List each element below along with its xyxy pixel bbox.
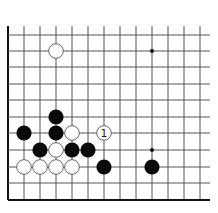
black-stone — [96, 159, 111, 174]
white-stone — [65, 160, 80, 175]
black-stone — [32, 142, 47, 157]
white-stone — [65, 126, 80, 141]
move-number-label: 1 — [101, 128, 107, 139]
black-stone — [144, 159, 159, 174]
white-stone — [49, 143, 64, 158]
white-stone — [33, 160, 48, 175]
star-point — [150, 148, 154, 152]
black-stone — [16, 125, 31, 140]
white-stone — [49, 160, 64, 175]
white-stone — [17, 160, 32, 175]
black-stone — [80, 142, 95, 157]
white-stone — [49, 44, 64, 59]
go-board: 1 — [0, 0, 218, 213]
black-stone — [48, 109, 63, 124]
white-stone: 1 — [97, 126, 112, 141]
black-stone — [64, 142, 79, 157]
black-stone — [48, 125, 63, 140]
star-point — [150, 49, 154, 53]
